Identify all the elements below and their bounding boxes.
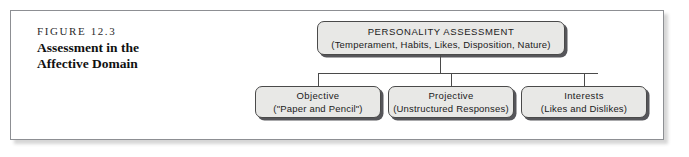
connector-root-stem (440, 55, 441, 73)
node-title: Interests (564, 90, 604, 101)
figure-frame: FIGURE 12.3 Assessment in the Affective … (10, 10, 664, 140)
node-title: Projective (428, 90, 473, 101)
node-title: Objective (297, 90, 340, 101)
connector-drop-interests (584, 73, 585, 86)
node-interests: Interests (Likes and Dislikes) (521, 86, 647, 118)
hierarchy-diagram: PERSONALITY ASSESSMENT (Temperament, Hab… (11, 11, 665, 141)
node-subtitle: (Unstructured Responses) (393, 103, 509, 114)
node-subtitle: (Temperament, Habits, Likes, Disposition… (331, 39, 550, 50)
connector-horizontal-bus (318, 73, 598, 74)
connector-drop-objective (318, 73, 319, 86)
node-title: PERSONALITY ASSESSMENT (368, 26, 515, 37)
node-projective: Projective (Unstructured Responses) (388, 86, 514, 118)
node-subtitle: (Likes and Dislikes) (541, 103, 627, 114)
node-personality-assessment: PERSONALITY ASSESSMENT (Temperament, Hab… (317, 21, 565, 55)
node-subtitle: ("Paper and Pencil") (273, 103, 362, 114)
node-objective: Objective ("Paper and Pencil") (255, 86, 381, 118)
connector-drop-projective (451, 73, 452, 86)
